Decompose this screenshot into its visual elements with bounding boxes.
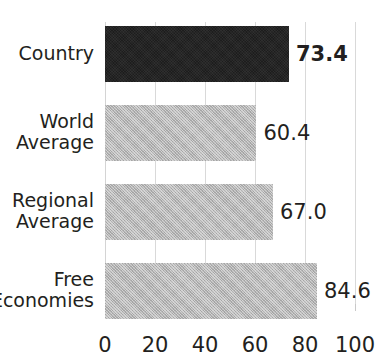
value-label-regional-average: 67.0 (280, 200, 327, 224)
bar-free-economies[interactable] (105, 263, 317, 319)
tickmark-100 (355, 304, 356, 311)
chart-title: Overall Score (0, 0, 391, 3)
category-label-free-economies: Free Economies (0, 269, 94, 311)
xtick-label-100: 100 (325, 333, 385, 356)
bar-world-average[interactable] (105, 105, 256, 161)
bar-chart: Overall Score 73.4 60.4 67.0 84.6 0 20 4… (0, 0, 391, 356)
bar-country[interactable] (105, 26, 289, 82)
category-label-regional-average: Regional Average (0, 190, 94, 232)
gridline-100 (355, 22, 356, 304)
value-label-world-average: 60.4 (264, 121, 311, 145)
category-label-country: Country (0, 43, 94, 64)
bar-regional-average[interactable] (105, 184, 273, 240)
value-label-country: 73.4 (296, 42, 348, 66)
category-label-world-average: World Average (0, 111, 94, 153)
plot-area: 73.4 60.4 67.0 84.6 0 20 40 60 80 100 (105, 22, 355, 304)
value-label-free-economies: 84.6 (324, 279, 371, 303)
